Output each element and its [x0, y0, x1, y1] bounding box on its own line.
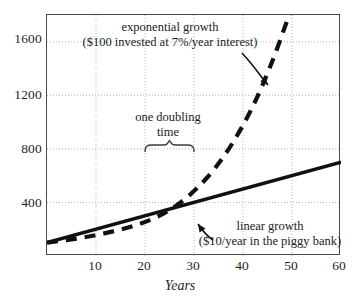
annotation-doubling-line1: one doubling	[118, 110, 218, 125]
x-tick-50: 50	[284, 258, 298, 274]
growth-comparison-chart: 1600 1200 800 400	[0, 0, 360, 306]
exponential-arrow-icon	[242, 53, 268, 85]
annotation-exponential-line1: exponential growth	[52, 20, 288, 35]
doubling-time-brace-icon	[145, 141, 194, 153]
y-tick-800: 800	[0, 141, 42, 157]
annotation-linear-line2: ($10/year in the piggy bank)	[182, 234, 358, 249]
y-tick-1600: 1600	[0, 31, 42, 47]
annotation-doubling-time: one doubling time	[118, 110, 218, 139]
x-tick-40: 40	[235, 258, 249, 274]
x-axis-tick-labels: 10 20 30 40 50 60	[0, 258, 360, 278]
x-tick-20: 20	[137, 258, 151, 274]
x-axis-title: Years	[0, 278, 360, 294]
annotation-linear-line1: linear growth	[182, 219, 358, 234]
x-tick-30: 30	[186, 258, 200, 274]
y-tick-400: 400	[0, 195, 42, 211]
x-tick-10: 10	[88, 258, 102, 274]
annotation-doubling-line2: time	[118, 125, 218, 140]
annotation-exponential-line2: ($100 invested at 7%/year interest)	[52, 35, 288, 50]
annotation-linear-growth: linear growth ($10/year in the piggy ban…	[182, 219, 358, 248]
annotation-exponential-growth: exponential growth ($100 invested at 7%/…	[52, 20, 288, 49]
x-tick-60: 60	[332, 258, 346, 274]
y-tick-1200: 1200	[0, 87, 42, 103]
